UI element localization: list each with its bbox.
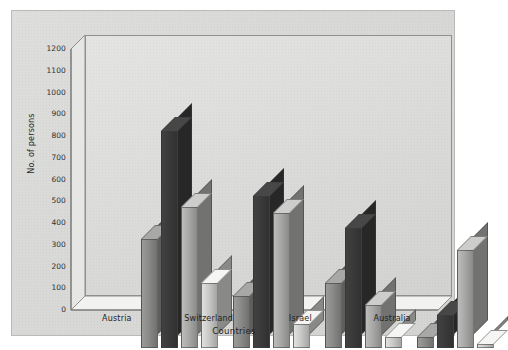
bar [477,87,494,348]
bar-group-container [130,87,497,348]
bar [233,87,250,348]
bar [437,87,454,348]
x-tick-label: Israel [289,314,312,323]
bar [181,87,198,348]
x-tick-label: Austria [102,314,132,323]
bar [417,87,434,348]
bar-front-face [477,344,494,348]
chart-panel: 0100200300400500600700800900100011001200… [11,10,455,336]
bar [325,87,342,348]
bar [457,87,474,348]
bar [385,87,402,348]
bar [201,87,218,348]
bar [161,87,178,348]
plot-area [71,49,438,310]
bar-top-face [477,330,508,344]
y-axis-label: No. of persons [27,89,36,199]
bar [293,87,310,348]
bar [273,87,290,348]
x-axis-label: Countries [12,326,456,336]
bar [253,87,270,348]
bar-front-face [457,250,474,348]
bar [365,87,382,348]
bar [141,87,158,348]
bar-front-face [385,337,402,348]
x-tick-label: Switzerland [184,314,233,323]
bar-front-face [417,337,434,348]
x-tick-label: Australia [374,314,411,323]
bar [345,87,362,348]
